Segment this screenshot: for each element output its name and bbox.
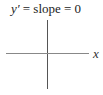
diagram-title: y′ = slope = 0: [0, 2, 92, 16]
x-axis-label: x: [93, 46, 99, 62]
derivative-symbol: y′: [11, 1, 20, 16]
horizontal-axis: [6, 53, 89, 54]
vertical-axis: [47, 20, 48, 89]
title-equation: = slope = 0: [20, 1, 82, 16]
